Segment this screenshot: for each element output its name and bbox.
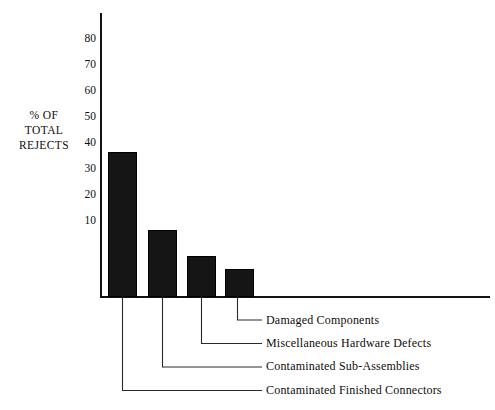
legend-label-contaminated-sub-assemblies: Contaminated Sub-Assemblies — [266, 360, 420, 373]
leader-line-contaminated-sub-assemblies — [163, 298, 263, 367]
leader-line-damaged-components — [238, 298, 263, 320]
leader-line-miscellaneous-hardware-defects — [202, 298, 263, 344]
pareto-chart-figure: % OF TOTAL REJECTS 80 70 60 50 40 30 20 … — [0, 0, 495, 410]
legend-label-damaged-components: Damaged Components — [266, 314, 379, 327]
legend-label-contaminated-finished-connectors: Contaminated Finished Connectors — [266, 384, 442, 397]
leader-line-contaminated-finished-connectors — [123, 298, 263, 391]
legend-label-miscellaneous-hardware-defects: Miscellaneous Hardware Defects — [266, 337, 431, 350]
